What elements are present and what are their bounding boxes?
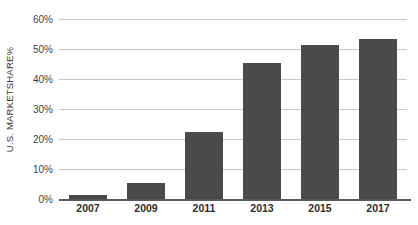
bar[interactable] [359, 39, 396, 199]
x-axis-tick-labels: 200720092011201320152017 [59, 202, 407, 222]
y-axis-title-text: U.S. MARKETSHARE% [5, 47, 16, 152]
plot-area [59, 19, 407, 199]
y-tick-label: 0% [19, 194, 53, 205]
y-tick-label: 10% [19, 164, 53, 175]
x-tick-label: 2015 [291, 202, 349, 214]
x-tick-label: 2011 [175, 202, 233, 214]
x-tick-label: 2007 [59, 202, 117, 214]
y-tick-label: 40% [19, 74, 53, 85]
y-tick-label: 30% [19, 104, 53, 115]
x-tick-label: 2009 [117, 202, 175, 214]
x-tick-label: 2017 [349, 202, 407, 214]
x-axis-line [59, 199, 411, 201]
bar[interactable] [127, 183, 164, 199]
bar[interactable] [243, 63, 280, 199]
y-tick-label: 20% [19, 134, 53, 145]
bar[interactable] [185, 132, 222, 199]
bar[interactable] [301, 45, 338, 200]
y-axis-title: U.S. MARKETSHARE% [0, 0, 20, 199]
y-axis-tick-labels: 0%10%20%30%40%50%60% [20, 0, 56, 225]
y-tick-label: 60% [19, 14, 53, 25]
y-tick-label: 50% [19, 44, 53, 55]
bar-chart: U.S. MARKETSHARE% 0%10%20%30%40%50%60% 2… [0, 0, 418, 225]
x-tick-label: 2013 [233, 202, 291, 214]
bars-group [59, 19, 407, 199]
